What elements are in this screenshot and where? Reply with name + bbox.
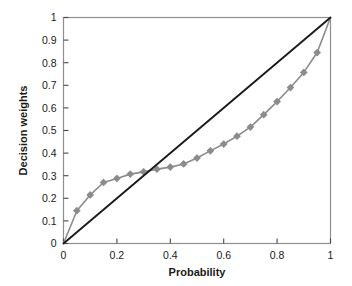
data-point-marker	[114, 175, 120, 181]
y-tick-label: 0.7	[42, 79, 57, 91]
data-point-marker	[167, 164, 173, 170]
data-point-marker	[181, 161, 187, 167]
y-tick-label: 0.9	[42, 34, 57, 46]
x-tick-label: 1	[328, 249, 334, 261]
x-tick-label: 0.8	[270, 249, 285, 261]
data-point-marker	[194, 155, 200, 161]
y-tick-label: 0.4	[42, 147, 57, 159]
x-tick-labels: 00.20.40.60.81	[61, 249, 334, 261]
y-tick-label: 0	[51, 237, 57, 249]
y-tick-label: 0.8	[42, 57, 57, 69]
y-axis-title: Decision weights	[17, 86, 29, 176]
data-point-marker	[127, 171, 133, 177]
x-tick-label: 0.4	[163, 249, 178, 261]
identity-line	[64, 18, 331, 244]
data-point-marker	[207, 148, 213, 154]
x-axis-title: Probability	[169, 266, 227, 278]
y-tick-label: 0.1	[42, 215, 57, 227]
y-tick-label: 1	[51, 11, 57, 23]
probability-weighting-chart: 00.20.40.60.8100.10.20.30.40.50.60.70.80…	[0, 0, 352, 286]
identity-line-series	[64, 18, 331, 244]
chart-figure: 00.20.40.60.8100.10.20.30.40.50.60.70.80…	[0, 0, 352, 286]
y-tick-labels: 00.10.20.30.40.50.60.70.80.91	[42, 11, 57, 249]
x-tick-label: 0.2	[110, 249, 125, 261]
y-tick-label: 0.2	[42, 192, 57, 204]
y-tick-label: 0.6	[42, 102, 57, 114]
x-tick-label: 0	[61, 249, 67, 261]
y-tick-label: 0.5	[42, 124, 57, 136]
y-tick-label: 0.3	[42, 170, 57, 182]
x-tick-label: 0.6	[216, 249, 231, 261]
